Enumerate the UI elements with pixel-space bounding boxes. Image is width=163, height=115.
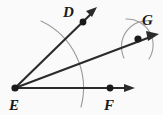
label-point-g: G xyxy=(142,12,153,28)
point-dot-e xyxy=(11,84,18,91)
label-point-e: E xyxy=(8,97,19,113)
label-point-f: F xyxy=(103,97,114,113)
label-point-d: D xyxy=(62,4,74,20)
geometry-canvas: E D F G xyxy=(0,0,163,115)
figure-background xyxy=(0,0,163,115)
point-dot-d xyxy=(80,19,87,26)
point-dot-g xyxy=(134,35,141,42)
point-dot-f xyxy=(107,85,114,92)
geometry-figure: E D F G xyxy=(0,0,163,115)
